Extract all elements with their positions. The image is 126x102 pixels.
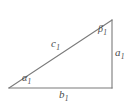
angle-label-alpha1: α1	[22, 73, 31, 83]
triangle-drawing	[0, 0, 126, 102]
side-label-c1: c1	[51, 38, 60, 49]
geometry-figure: c1 b1 a1 α1 β1	[0, 0, 126, 102]
side-label-b1: b1	[59, 89, 68, 100]
side-label-a1: a1	[115, 47, 124, 58]
angle-label-beta1: β1	[98, 24, 107, 34]
